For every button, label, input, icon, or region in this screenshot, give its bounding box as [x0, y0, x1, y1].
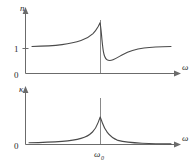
extinction-coefficient-curve	[29, 117, 171, 144]
top-tick-one-label: 1	[14, 44, 19, 54]
dispersion-absorption-figure: n 1 0 ω κ 0 ω	[0, 0, 196, 163]
bottom-y-axis-label: κ	[19, 84, 24, 94]
top-y-axis	[23, 7, 29, 74]
bottom-y-axis-arrow	[23, 86, 29, 93]
bottom-panel: κ 0 ω ω 0	[14, 84, 188, 161]
resonance-label-base: ω	[94, 149, 100, 159]
top-x-axis-label: ω	[182, 62, 188, 72]
top-x-axis	[26, 71, 182, 77]
bottom-x-axis-label: ω	[182, 133, 188, 143]
bottom-y-axis	[23, 86, 29, 145]
bottom-x-axis-arrow	[174, 142, 181, 148]
resonance-label-sub: 0	[101, 155, 104, 161]
top-tick-zero-label: 0	[14, 70, 19, 80]
bottom-tick-zero-label: 0	[14, 141, 19, 151]
resonance-frequency-label: ω 0	[94, 149, 104, 161]
top-y-axis-label: n	[20, 3, 25, 13]
top-panel: n 1 0 ω	[14, 3, 188, 80]
refractive-index-curve	[32, 23, 171, 61]
top-x-axis-arrow	[174, 71, 181, 77]
